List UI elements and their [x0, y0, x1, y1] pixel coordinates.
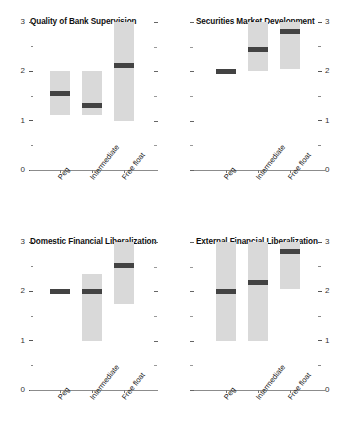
median-bar: [82, 103, 102, 108]
y-tick-mark: [318, 145, 321, 146]
y-tick-mark: [29, 340, 33, 341]
y-tick-mark: [31, 316, 34, 317]
median-bar: [50, 91, 70, 96]
plot-area: [38, 22, 146, 170]
y-tick-mark: [318, 340, 322, 341]
y-tick-mark: [318, 242, 322, 243]
y-tick-mirror: [190, 145, 193, 146]
panel-domestic-financial-liberalization: Domestic Financial Liberalization 0123Pe…: [0, 220, 168, 440]
median-bar: [114, 263, 134, 268]
panel-quality-of-bank-supervision: Quality of Bank Supervision 0123PegInter…: [0, 0, 168, 220]
chart-grid: Quality of Bank Supervision 0123PegInter…: [0, 0, 337, 440]
y-axis: 0123: [0, 220, 34, 440]
y-tick-mirror: [190, 291, 194, 292]
y-tick-label: 0: [21, 166, 25, 174]
y-tick-mirror: [154, 47, 157, 48]
y-tick-label: 3: [21, 238, 25, 246]
y-tick-mirror: [154, 291, 158, 292]
y-tick-mirror: [154, 96, 157, 97]
y-tick-mark: [29, 22, 33, 23]
y-tick-mark: [29, 120, 33, 121]
y-tick-mirror: [154, 71, 158, 72]
y-tick-mirror: [190, 267, 193, 268]
y-tick-label: 1: [21, 337, 25, 345]
y-tick-mark: [318, 316, 321, 317]
y-tick-mirror: [190, 22, 194, 23]
plot-area: [38, 242, 146, 390]
y-tick-mark: [29, 291, 33, 292]
y-tick-mirror: [190, 96, 193, 97]
range-box: [82, 274, 102, 341]
y-tick-mirror: [154, 145, 157, 146]
y-tick-label: 3: [21, 18, 25, 26]
y-tick-mirror: [154, 242, 158, 243]
y-tick-label: 1: [325, 117, 329, 125]
y-tick-mark: [318, 291, 322, 292]
y-tick-mark: [31, 266, 34, 267]
y-tick-mark: [318, 46, 321, 47]
median-bar: [114, 63, 134, 68]
y-tick-mark: [29, 242, 33, 243]
y-tick-mirror: [154, 267, 157, 268]
y-tick-mirror: [154, 341, 158, 342]
y-tick-label: 1: [21, 117, 25, 125]
y-tick-label: 3: [325, 18, 329, 26]
y-tick-mark: [318, 365, 321, 366]
y-tick-mark: [318, 71, 322, 72]
range-box: [114, 22, 134, 121]
y-tick-mark: [31, 46, 34, 47]
y-tick-mirror: [190, 47, 193, 48]
y-tick-mark: [31, 96, 34, 97]
median-bar: [50, 289, 70, 294]
y-tick-mirror: [154, 316, 157, 317]
panel-external-financial-liberalization: External Financial Liberalization 0123Pe…: [168, 220, 337, 440]
y-axis: 0123: [168, 220, 337, 440]
y-tick-mirror: [154, 22, 158, 23]
y-tick-mark: [318, 266, 321, 267]
y-tick-mirror: [190, 121, 194, 122]
y-tick-label: 2: [325, 67, 329, 75]
y-tick-mark: [29, 71, 33, 72]
y-tick-mirror: [190, 365, 193, 366]
y-axis: 0123: [0, 0, 34, 220]
y-tick-mirror: [154, 121, 158, 122]
y-tick-mirror: [190, 316, 193, 317]
y-tick-label: 3: [325, 238, 329, 246]
y-tick-label: 2: [325, 287, 329, 295]
y-tick-mirror: [190, 341, 194, 342]
range-box: [114, 242, 134, 304]
y-tick-mark: [318, 96, 321, 97]
y-tick-label: 0: [21, 386, 25, 394]
y-tick-mark: [318, 120, 322, 121]
y-tick-mirror: [154, 365, 157, 366]
y-tick-mirror: [190, 242, 194, 243]
y-tick-mark: [31, 145, 34, 146]
y-tick-label: 1: [325, 337, 329, 345]
y-axis: 0123: [168, 0, 337, 220]
y-tick-label: 2: [21, 287, 25, 295]
panel-securities-market-development: Securities Market Development 0123PegInt…: [168, 0, 337, 220]
y-tick-mark: [318, 22, 322, 23]
y-tick-mirror: [190, 71, 194, 72]
y-tick-label: 2: [21, 67, 25, 75]
median-bar: [82, 289, 102, 294]
y-tick-mark: [31, 365, 34, 366]
